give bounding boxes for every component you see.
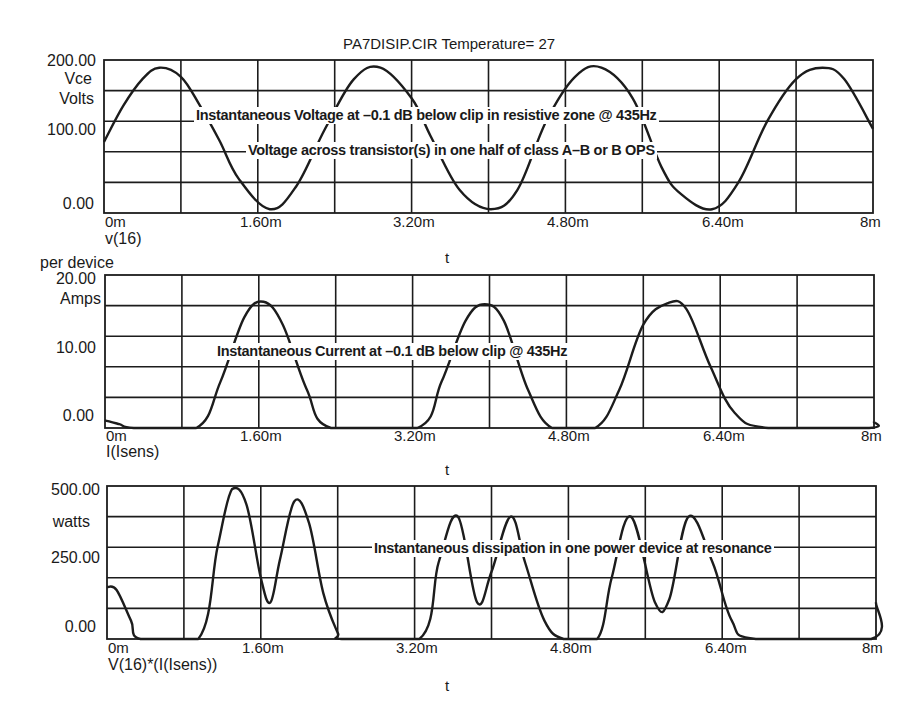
p3-annotation-1: Instantaneous dissipation in one power d… (372, 540, 774, 557)
p3-ytick-bot: 0.00 (30, 619, 96, 635)
p2-xtick-0: 0m (106, 428, 127, 443)
p1-annotation-1: Instantaneous Voltage at –0.1 dB below c… (194, 107, 659, 124)
p3-ytick-top: 500.00 (30, 482, 100, 498)
p2-xtick-4: 6.40m (703, 428, 745, 443)
p2-xtick-5: 8m (861, 428, 882, 443)
chart-stage: PA7DISIP.CIR Temperature= 27 200.00 Vce … (0, 0, 919, 726)
p1-xtick-4: 6.40m (702, 214, 744, 229)
p2-xlabel: t (445, 462, 449, 477)
p1-annotation-2: Voltage across transistor(s) in one half… (246, 142, 657, 159)
p3-xtick-0: 0m (108, 640, 129, 655)
p2-xtick-2: 3.20m (394, 428, 436, 443)
p1-ytick-bot: 0.00 (30, 196, 94, 212)
p3-xtick-4: 6.40m (705, 640, 747, 655)
p3-ytick-mid: 250.00 (30, 550, 100, 566)
p2-trace-label: I(Isens) (106, 444, 159, 460)
p1-xtick-1: 1.60m (240, 214, 282, 229)
p2-xtick-3: 4.80m (548, 428, 590, 443)
p3-xtick-3: 4.80m (550, 640, 592, 655)
p1-xtick-3: 4.80m (547, 214, 589, 229)
p2-xtick-1: 1.60m (240, 428, 282, 443)
p2-ytick-top: 20.00 (30, 271, 96, 287)
p1-xtick-2: 3.20m (393, 214, 435, 229)
trace-2 (105, 301, 879, 428)
p2-ytick-bot: 0.00 (30, 408, 94, 424)
p3-trace-label: V(16)*(I(Isens)) (108, 657, 217, 673)
p2-annotation-1: Instantaneous Current at –0.1 dB below c… (215, 343, 569, 360)
p2-ytick-mid: 10.00 (30, 340, 96, 356)
p3-xlabel: t (445, 678, 449, 693)
p1-ytick-top: 200.00 (30, 53, 96, 69)
p1-ytick-mid: 100.00 (30, 122, 96, 138)
p2-ylabel-amps: Amps (30, 291, 101, 307)
chart-title: PA7DISIP.CIR Temperature= 27 (343, 36, 555, 51)
p1-trace-label: v(16) (105, 231, 141, 247)
p1-ylabel-volts: Volts (30, 91, 94, 107)
p3-xtick-1: 1.60m (242, 640, 284, 655)
p1-xlabel: t (445, 250, 449, 265)
p3-xtick-5: 8m (862, 640, 883, 655)
p1-xtick-5: 8m (860, 214, 881, 229)
p3-xtick-2: 3.20m (396, 640, 438, 655)
p3-ylabel-watts: watts (30, 514, 90, 530)
p1-xtick-0: 0m (105, 214, 126, 229)
p1-ylabel-vce: Vce (30, 71, 92, 87)
trace-3 (107, 488, 882, 639)
p2-ylabel-per-device: per device (40, 255, 114, 271)
